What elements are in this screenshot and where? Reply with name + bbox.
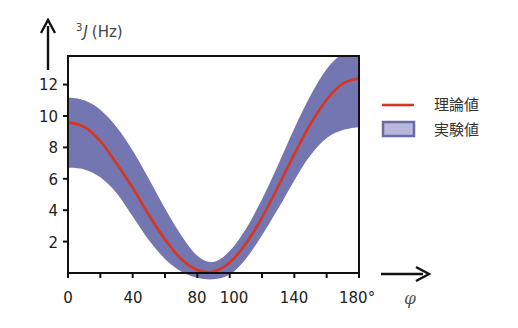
x-tick-label: 100	[220, 289, 249, 307]
y-tick-label: 6	[48, 171, 58, 189]
x-tick-labels: 0 40 80 100 140 180°	[63, 289, 375, 307]
y-tick-label: 12	[39, 76, 58, 94]
karplus-chart: 3J(Hz) 2 4 6 8 10 12 0 40 80 100 140 180…	[0, 0, 518, 328]
x-tick-label: 40	[123, 289, 142, 307]
y-axis-arrow-icon	[41, 20, 55, 70]
y-tick-label: 2	[48, 234, 58, 252]
legend-label: 実験値	[434, 121, 479, 139]
x-tick-label: 140	[280, 289, 309, 307]
y-tick-label: 8	[48, 139, 58, 157]
legend-item-experiment: 実験値	[383, 121, 479, 139]
x-axis-arrow-icon	[381, 267, 429, 281]
x-tick-label: 0	[63, 289, 73, 307]
x-tick-label: 180°	[339, 289, 375, 307]
y-tick-label: 10	[39, 108, 58, 126]
y-axis-title: 3J(Hz)	[76, 22, 123, 41]
x-axis-title: φ	[404, 288, 416, 308]
box-swatch-icon	[383, 122, 414, 136]
y-tick-label: 4	[48, 202, 58, 220]
x-tick-label: 80	[187, 289, 206, 307]
legend: 理論値 実験値	[382, 96, 479, 139]
legend-item-theory: 理論値	[382, 96, 479, 114]
legend-label: 理論値	[434, 96, 479, 114]
experiment-band	[68, 45, 359, 279]
y-tick-labels: 2 4 6 8 10 12	[39, 76, 58, 252]
